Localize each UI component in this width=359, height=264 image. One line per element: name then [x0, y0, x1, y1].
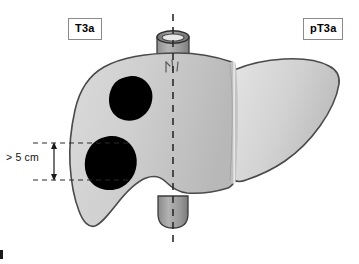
- liver-staging-figure: T3a pT3a > 5 cm: [0, 0, 359, 264]
- liver-right-lobe: [70, 53, 234, 226]
- falciform-ligament: [233, 64, 235, 181]
- corner-crop-mark: [0, 250, 3, 259]
- clinical-stage-label: T3a: [68, 18, 102, 40]
- liver-left-lobe: [234, 59, 339, 182]
- measure-arrow: [51, 142, 57, 181]
- measurement-label: > 5 cm: [6, 151, 39, 163]
- pathologic-stage-label: pT3a: [303, 18, 343, 40]
